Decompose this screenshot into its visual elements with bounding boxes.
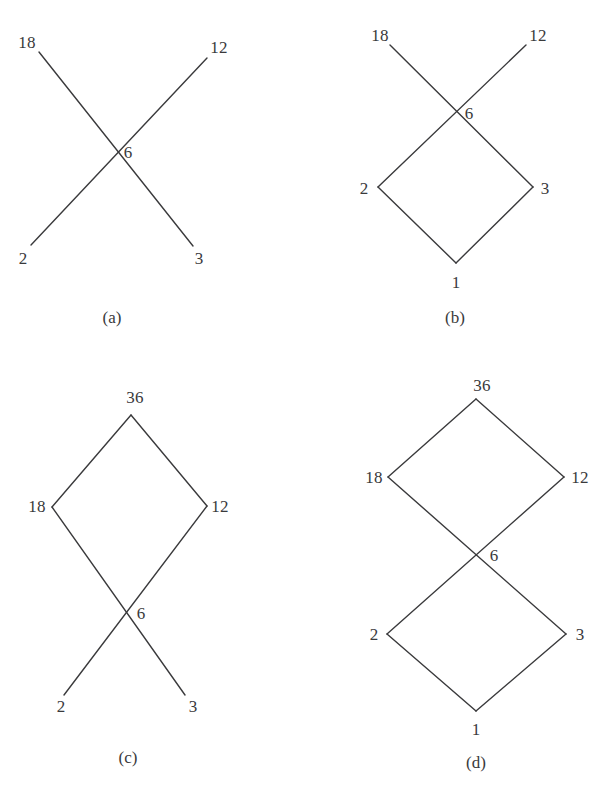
panel-b-caption: (b) <box>445 309 465 326</box>
panel-a-line-12-to-2 <box>31 58 207 245</box>
panel-d-line-12-to-2 <box>387 477 564 634</box>
panel-d-label-6: 6 <box>490 547 499 564</box>
panel-b-label-12: 12 <box>529 27 546 44</box>
panel-d-lines <box>387 399 566 711</box>
panel-c-line-12-to-2 <box>64 506 207 695</box>
panel-a-label-18: 18 <box>18 34 35 51</box>
panel-c-label-2: 2 <box>57 698 66 715</box>
figure-page: 18 12 6 2 3 (a) 18 12 6 2 3 1 (b) 36 18 … <box>0 0 609 798</box>
panel-b-label-1: 1 <box>452 274 461 291</box>
panel-c-label-12: 12 <box>211 498 228 515</box>
panel-d-label-3: 3 <box>576 626 585 643</box>
panel-a-label-12: 12 <box>210 39 227 56</box>
panel-d-label-2: 2 <box>370 626 379 643</box>
panel-a-label-6: 6 <box>124 144 133 161</box>
panel-c-caption: (c) <box>119 749 138 766</box>
panel-c-line-36-to-12 <box>131 415 207 506</box>
panel-c-label-6: 6 <box>137 605 146 622</box>
panel-d-line-18-to-3 <box>388 477 566 634</box>
panel-a-caption: (a) <box>103 309 122 326</box>
panel-b-line-3-to-1 <box>456 187 533 263</box>
panel-d-label-1: 1 <box>472 721 481 738</box>
panel-d-line-2-to-1 <box>387 634 476 711</box>
panel-c-line-18-to-3 <box>52 507 185 695</box>
panel-d-line-36-to-18 <box>388 399 476 477</box>
panel-a-label-2: 2 <box>19 250 28 267</box>
panel-d-label-12: 12 <box>571 469 588 486</box>
panel-b-label-18: 18 <box>371 27 388 44</box>
panel-b-lines <box>378 45 533 263</box>
panel-c-label-18: 18 <box>28 498 45 515</box>
figure-lines <box>0 0 609 798</box>
panel-d-line-3-to-1 <box>476 634 566 711</box>
panel-c-lines <box>52 415 207 695</box>
panel-b-line-12-to-2 <box>378 45 526 187</box>
panel-b-label-6: 6 <box>465 105 474 122</box>
panel-d-caption: (d) <box>466 754 486 771</box>
panel-b-line-18-to-3 <box>390 45 533 187</box>
panel-d-line-36-to-12 <box>476 399 564 477</box>
panel-c-label-36: 36 <box>126 389 143 406</box>
panel-a-line-18-to-3 <box>39 52 193 246</box>
panel-c-line-36-to-18 <box>52 415 131 507</box>
panel-d-label-36: 36 <box>473 377 490 394</box>
panel-b-line-2-to-1 <box>378 187 456 263</box>
panel-c-label-3: 3 <box>189 698 198 715</box>
panel-d-label-18: 18 <box>365 469 382 486</box>
panel-a-lines <box>31 52 207 246</box>
panel-b-label-3: 3 <box>541 180 550 197</box>
panel-a-label-3: 3 <box>195 250 204 267</box>
panel-b-label-2: 2 <box>360 180 369 197</box>
